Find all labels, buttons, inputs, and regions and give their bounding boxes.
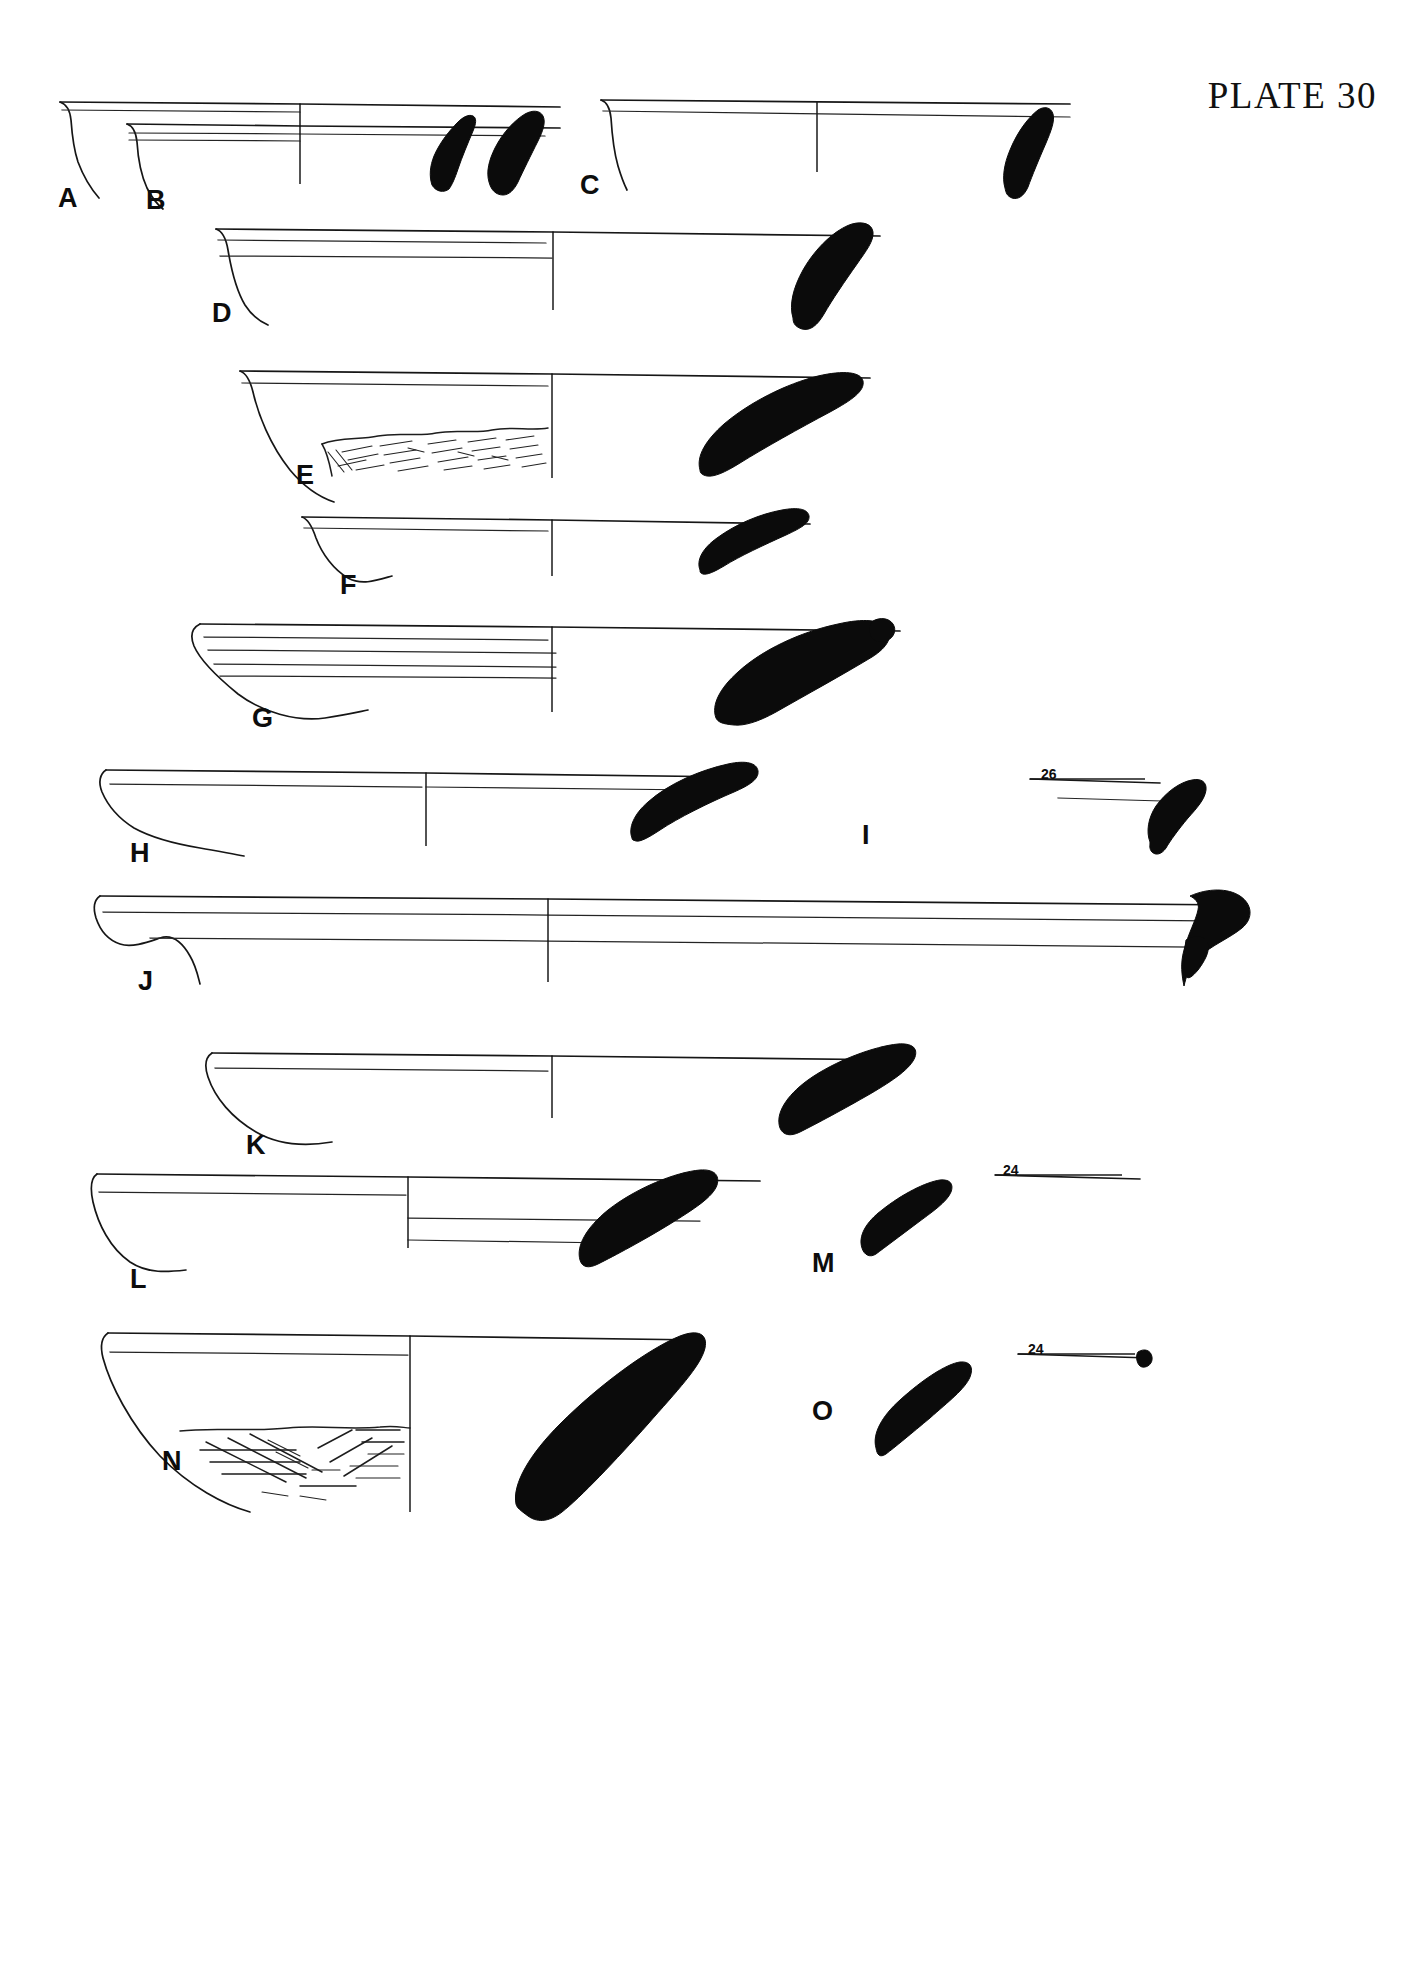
plate-title: PLATE 30 (1208, 74, 1377, 117)
figure-k-drawing (206, 1044, 916, 1144)
figure-e-decoration (322, 428, 548, 476)
figure-j-drawing (94, 890, 1250, 986)
figure-l-drawing (91, 1170, 760, 1272)
figure-o-drawing (875, 1350, 1152, 1456)
figure-label-o: O (812, 1398, 833, 1425)
figure-label-a: A (58, 185, 78, 212)
figure-label-j: J (138, 968, 153, 995)
figure-label-k: K (246, 1132, 266, 1159)
plate-page: PLATE 30 A B C D E F G H I J K L M N O 2… (0, 0, 1407, 1987)
diameter-marker-i: 26 (1041, 767, 1057, 781)
figure-label-f: F (340, 572, 357, 599)
figure-c-drawing (601, 100, 1070, 199)
diameter-marker-o: 24 (1028, 1342, 1044, 1356)
figure-label-d: D (212, 300, 232, 327)
figure-f-drawing (302, 509, 810, 582)
figure-label-l: L (130, 1266, 147, 1293)
figure-g-drawing (192, 619, 900, 726)
figure-label-g: G (252, 705, 273, 732)
diameter-marker-m: 24 (1003, 1163, 1019, 1177)
figure-label-b: B (146, 187, 166, 214)
figure-label-c: C (580, 172, 600, 199)
figure-label-i: I (862, 822, 870, 849)
figure-e-drawing (240, 371, 870, 502)
figure-label-h: H (130, 840, 150, 867)
figure-n-drawing (102, 1333, 706, 1521)
figure-h-drawing (100, 762, 758, 856)
figure-a-drawing (60, 102, 300, 198)
figure-label-n: N (162, 1448, 182, 1475)
figure-ab-sherd-sections (430, 111, 544, 195)
figure-n-decoration (180, 1426, 410, 1500)
figure-i-drawing (1030, 779, 1206, 854)
figure-m-drawing (861, 1175, 1140, 1256)
figure-label-m: M (812, 1250, 835, 1277)
figure-label-e: E (296, 462, 314, 489)
figure-d-drawing (216, 223, 880, 330)
